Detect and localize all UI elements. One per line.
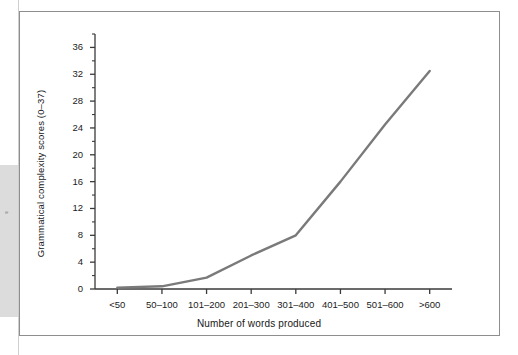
y-tick-label: 8 <box>59 230 83 240</box>
y-tick-label: 16 <box>59 177 83 187</box>
data-series-line <box>117 71 429 288</box>
axes <box>95 34 452 289</box>
y-tick-label: 4 <box>59 257 83 267</box>
y-tick-label: 0 <box>59 284 83 294</box>
y-tick-label: 20 <box>59 150 83 160</box>
y-tick-label: 12 <box>59 203 83 213</box>
y-tick-label: 32 <box>59 69 83 79</box>
line-chart: Grammatical complexity scores (0–37) Num… <box>0 0 518 355</box>
x-tick-label: >600 <box>400 300 460 310</box>
y-tick-label: 36 <box>59 42 83 52</box>
y-tick-label: 24 <box>59 123 83 133</box>
axis-ticks <box>90 34 430 294</box>
y-tick-label: 28 <box>59 96 83 106</box>
